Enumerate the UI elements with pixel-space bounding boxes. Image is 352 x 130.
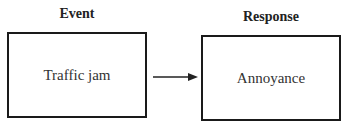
event-heading: Event xyxy=(7,6,147,22)
response-box: Annoyance xyxy=(201,35,341,121)
event-text: Traffic jam xyxy=(43,67,110,84)
response-text: Annoyance xyxy=(237,70,305,87)
event-box: Traffic jam xyxy=(7,32,147,118)
arrow-right-icon xyxy=(152,71,202,83)
response-heading: Response xyxy=(201,9,341,25)
